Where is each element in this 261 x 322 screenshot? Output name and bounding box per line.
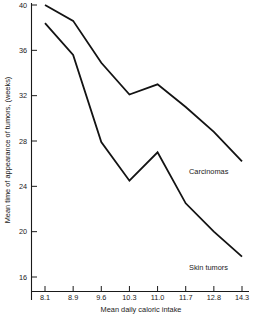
- x-tick-label: 10.3: [122, 293, 136, 302]
- chart-container: 40363228242016 8.18.99.610.311.011.712.8…: [0, 0, 261, 322]
- series-labels-group: CarcinomasSkin tumors: [189, 167, 229, 271]
- x-tick-label: 9.6: [96, 293, 106, 302]
- y-axis-tick-labels: 40363228242016: [19, 1, 27, 282]
- y-tick-label: 32: [19, 91, 27, 100]
- series-line-skin-tumors: [45, 23, 242, 256]
- x-tick-label: 8.1: [40, 293, 50, 302]
- series-label-carcinomas: Carcinomas: [189, 167, 229, 176]
- series-label-skin-tumors: Skin tumors: [189, 263, 228, 272]
- series-line-carcinomas: [45, 5, 242, 161]
- x-axis-ticks: [45, 286, 242, 292]
- y-axis-ticks: [32, 5, 38, 277]
- y-tick-label: 40: [19, 1, 27, 10]
- line-chart: 40363228242016 8.18.99.610.311.011.712.8…: [0, 0, 261, 322]
- x-axis-title: Mean daily caloric intake: [101, 305, 182, 314]
- x-tick-label: 8.9: [68, 293, 78, 302]
- y-tick-label: 24: [19, 182, 27, 191]
- y-tick-label: 36: [19, 46, 27, 55]
- x-axis-tick-labels: 8.18.99.610.311.011.712.814.3: [40, 293, 249, 302]
- x-tick-label: 11.7: [179, 293, 193, 302]
- y-tick-label: 16: [19, 273, 27, 282]
- x-tick-label: 11.0: [151, 293, 165, 302]
- y-tick-label: 28: [19, 137, 27, 146]
- y-tick-label: 20: [19, 227, 27, 236]
- y-axis-title: Mean time of appearance of tumors, (week…: [3, 77, 12, 224]
- x-tick-label: 12.8: [207, 293, 221, 302]
- x-tick-label: 14.3: [235, 293, 249, 302]
- series-group: [45, 5, 242, 257]
